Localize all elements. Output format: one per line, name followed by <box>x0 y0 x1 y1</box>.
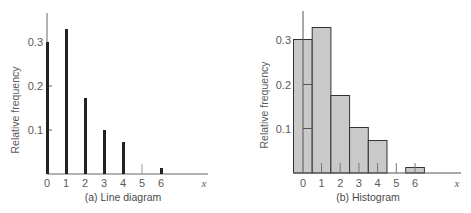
line-bar-2 <box>84 98 87 174</box>
histogram-chart: 0.1 0.2 0.3 0 1 2 3 4 5 6 x Relative fre… <box>258 11 461 203</box>
x-tick-label: 4 <box>120 177 126 189</box>
line-bar-6 <box>160 168 163 174</box>
hist-bar-1 <box>312 28 331 174</box>
y-tick-label: 0.2 <box>276 79 291 91</box>
line-bar-0 <box>46 42 49 174</box>
x-variable-label: x <box>201 177 207 189</box>
x-tick-label: 6 <box>412 177 418 189</box>
x-tick-label: 1 <box>63 177 69 189</box>
line-bar-1 <box>65 29 68 174</box>
x-tick-label: 3 <box>101 177 107 189</box>
x-tick-label: 5 <box>139 177 145 189</box>
x-tick-label: 0 <box>300 177 306 189</box>
x-tick-label: 1 <box>318 177 324 189</box>
y-axis-title: Relative frequency <box>9 66 21 154</box>
y-tick-label: 0.3 <box>28 36 43 48</box>
y-axis-title: Relative frequency <box>258 61 270 149</box>
y-tick-label: 0.3 <box>276 34 291 46</box>
chart-caption: (a) Line diagram <box>85 191 162 203</box>
line-bar-4 <box>122 142 125 174</box>
x-tick-label: 4 <box>375 177 381 189</box>
y-tick-label: 0.1 <box>28 124 43 136</box>
y-tick-label: 0.1 <box>276 123 291 135</box>
x-tick-label: 5 <box>393 177 399 189</box>
y-tick-label: 0.2 <box>28 80 43 92</box>
chart-caption: (b) Histogram <box>336 191 400 203</box>
x-tick-label: 0 <box>44 177 50 189</box>
figure: 0.1 0.2 0.3 0 1 2 3 4 5 6 x Relative fre… <box>0 0 471 213</box>
line-diagram-chart: 0.1 0.2 0.3 0 1 2 3 4 5 6 x Relative fre… <box>9 13 208 203</box>
x-tick-label: 2 <box>337 177 343 189</box>
line-bar-3 <box>103 130 106 174</box>
hist-bar-2 <box>331 96 350 174</box>
x-variable-label: x <box>454 177 460 189</box>
x-tick-label: 2 <box>82 177 88 189</box>
x-tick-label: 3 <box>356 177 362 189</box>
x-tick-label: 6 <box>158 177 164 189</box>
